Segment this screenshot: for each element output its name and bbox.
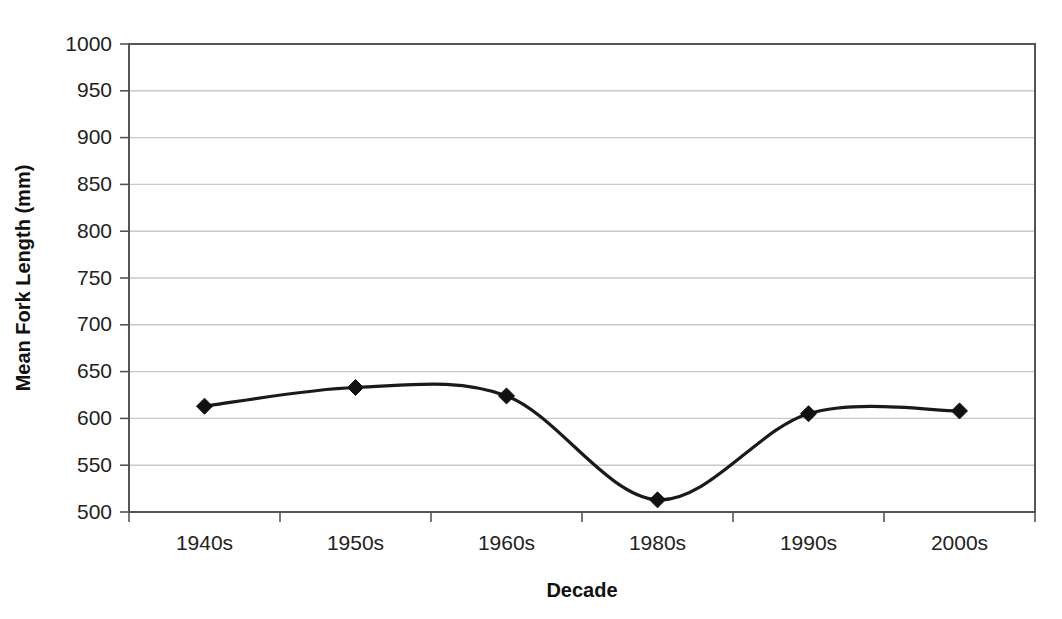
y-tick-label: 900: [77, 125, 112, 148]
y-axis-title: Mean Fork Length (mm): [12, 165, 34, 392]
y-tick-label: 600: [77, 406, 112, 429]
y-tick-label: 850: [77, 172, 112, 195]
y-tick-label: 750: [77, 266, 112, 289]
y-tick-label: 1000: [65, 32, 112, 55]
x-tick-label: 1990s: [780, 531, 837, 554]
x-tick-label: 1940s: [176, 531, 233, 554]
x-tick-label: 1980s: [629, 531, 686, 554]
y-tick-label: 700: [77, 312, 112, 335]
x-tick-label: 1960s: [478, 531, 535, 554]
y-tick-label: 800: [77, 219, 112, 242]
y-tick-label: 500: [77, 500, 112, 523]
chart-container: 1000950900850800750700650600550500 1940s…: [0, 0, 1062, 619]
x-tick-label: 1950s: [327, 531, 384, 554]
y-tick-label: 650: [77, 359, 112, 382]
x-tick-label: 2000s: [931, 531, 988, 554]
line-chart: 1000950900850800750700650600550500 1940s…: [0, 0, 1062, 619]
x-axis-title: Decade: [546, 579, 617, 601]
chart-background: [0, 0, 1062, 619]
y-tick-label: 550: [77, 453, 112, 476]
y-tick-label: 950: [77, 78, 112, 101]
